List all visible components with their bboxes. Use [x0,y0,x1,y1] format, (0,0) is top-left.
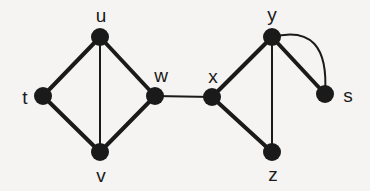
node-label-z: z [268,165,278,184]
node-label-v: v [96,166,106,185]
node-x[interactable] [203,88,221,106]
graph-canvas [0,0,370,191]
node-v[interactable] [91,143,109,161]
node-label-t: t [22,88,27,107]
graph-diagram: tuvwxyzs [0,0,370,191]
node-t[interactable] [34,87,52,105]
edge-t-u [43,37,100,96]
node-w[interactable] [146,87,164,105]
node-label-y: y [267,5,277,24]
node-label-u: u [96,6,107,25]
node-label-w: w [154,66,168,85]
node-z[interactable] [263,143,281,161]
edge-x-z [212,97,272,152]
edge-x-y [212,37,272,97]
node-y[interactable] [263,28,281,46]
node-s[interactable] [316,85,334,103]
node-layer [34,28,334,161]
node-u[interactable] [91,28,109,46]
edge-u-w [100,37,155,96]
edge-v-w [100,96,155,152]
node-label-x: x [208,67,218,86]
edge-t-v [43,96,100,152]
edge-layer [43,34,325,152]
node-label-s: s [343,86,353,105]
